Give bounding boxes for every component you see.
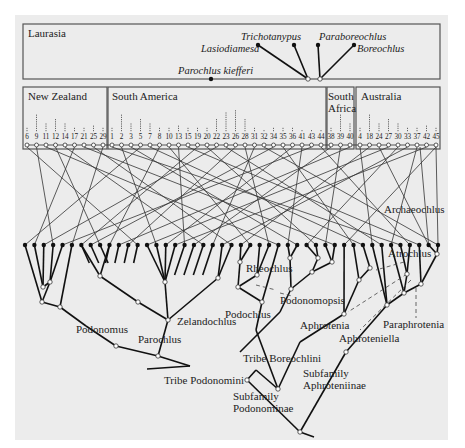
region-south-america-label: South America [112,90,178,102]
area-number: 3 [129,133,133,141]
clade-atrochlus: Atrochlus [388,247,431,259]
clade-subfamily-aphroteniinae-1: Subfamily [303,367,349,379]
area-number: 26 [232,133,240,141]
clade-parochlus: Parochlus [138,333,181,345]
region-new-zealand-label: New Zealand [28,90,87,102]
area-number: 42 [423,133,431,141]
clade-archaeochlus: Archaeochlus [384,203,444,215]
area-number: 33 [404,133,412,141]
region-laurasia-label: Laurasia [28,27,66,39]
taxon-lasiodiamesa: Lasiodiamesa [200,43,259,54]
area-number: 44 [317,133,325,141]
area-number: 20 [203,133,211,141]
clade-podonomus: Podonomus [76,323,128,335]
area-number: 4 [358,133,362,141]
area-number: 11 [43,133,50,141]
clade-subfamily-podonominae-2: Podonominae [233,402,294,414]
area-number: 32 [260,133,268,141]
area-number: 13 [175,133,183,141]
area-number: 1 [110,133,114,141]
area-number: 15 [184,133,192,141]
area-number: 45 [432,133,440,141]
area-number: 27 [385,133,393,141]
area-number: 28 [241,133,249,141]
clade-aphrotenia: Aphrotenia [300,319,350,331]
area-number: 36 [289,133,297,141]
clade-podonomopsis: Podonomopsis [280,294,345,306]
taxon-boreochlus: Boreochlus [357,43,404,54]
area-number: 38 [327,133,335,141]
clade-tribe-podonomini: Tribe Podonomini [164,374,244,386]
area-number: 41 [298,133,306,141]
clade-rheochlus: Rheochlus [246,262,292,274]
clade-tribe-boreochlini: Tribe Boreochlini [243,352,321,364]
taxon-parochlus-kiefferi: Parochlus kiefferi [177,65,253,76]
area-number: 31 [251,133,259,141]
region-australia-label: Australia [361,90,401,102]
area-number: 34 [270,133,278,141]
area-number: 21 [80,133,88,141]
area-number: 30 [394,133,402,141]
area-number: 40 [346,133,354,141]
area-number: 14 [61,133,69,141]
clade-subfamily-aphroteniinae-2: Aphroteniinae [303,379,366,391]
clade-zelandochlus: Zelandochlus [177,315,236,327]
phylogeny-figure: Laurasia New Zealand South America South… [0,0,465,448]
area-number: 12 [52,133,60,141]
area-number: 35 [279,133,287,141]
area-number: 6 [25,133,29,141]
clade-subfamily-podonominae-1: Subfamily [233,390,279,402]
area-number: 18 [366,133,374,141]
area-number: 29 [99,133,107,141]
area-number: 5 [139,133,143,141]
area-number: 24 [375,133,383,141]
area-number: 23 [222,133,230,141]
clade-aphroteniella: Aphroteniella [339,332,400,344]
area-number: 39 [337,133,345,141]
taxon-paraboreochlus: Paraboreochlus [318,31,386,42]
area-number: 7 [148,133,152,141]
area-number: 19 [194,133,202,141]
region-south-africa-label-1: South [328,90,354,102]
area-number: 22 [213,133,221,141]
taxon-trichotanypus: Trichotanypus [241,31,301,42]
area-number: 17 [71,133,79,141]
area-number: 43 [308,133,316,141]
clade-paraphrotenia: Paraphrotenia [383,318,444,330]
region-south-africa-label-2: Africa [328,102,356,114]
area-number: 37 [413,133,421,141]
area-number: 25 [90,133,98,141]
area-number: 2 [120,133,124,141]
area-number: 10 [165,133,173,141]
area-number: 9 [35,133,39,141]
area-number: 8 [158,133,162,141]
